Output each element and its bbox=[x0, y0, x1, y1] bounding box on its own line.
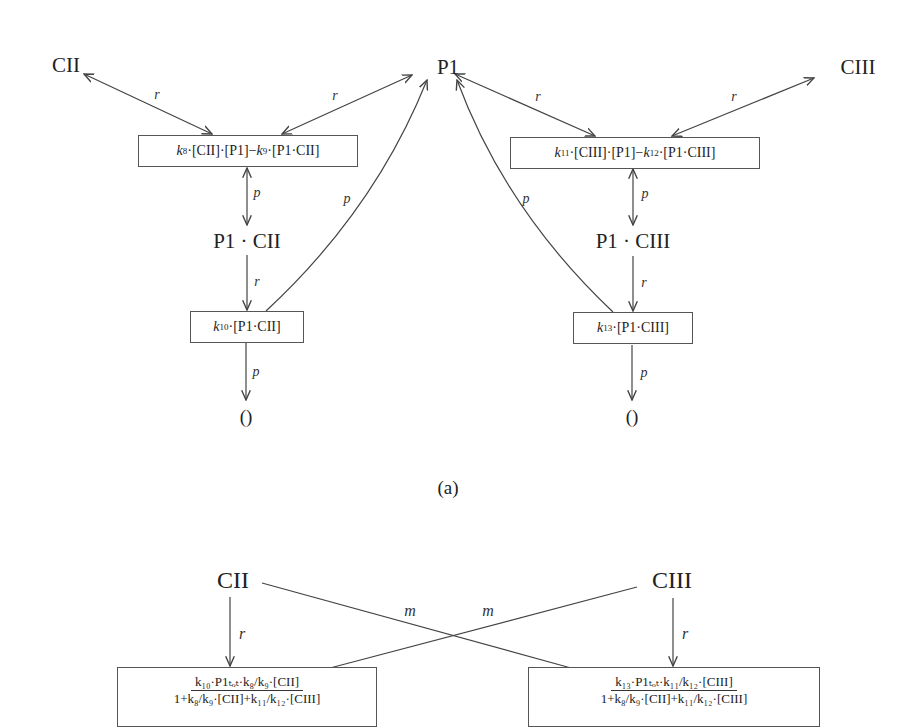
reaction-ciii-production: k₁₃·P1ₜₒₜ·k₁₁/k₁₂·[CIII] 1+k₈/k₉·[CII]+k… bbox=[528, 667, 820, 727]
species-ciii: CIII bbox=[841, 55, 876, 80]
edge-label-r: r bbox=[731, 89, 736, 105]
fraction-numerator: k₁₀·P1ₜₒₜ·k₈/k₉·[CII] bbox=[191, 674, 303, 691]
edge-label-r: r bbox=[332, 88, 337, 104]
edge-label-r: r bbox=[239, 625, 245, 643]
edge-label-p: p bbox=[344, 191, 351, 207]
rate-index: 12 bbox=[650, 148, 659, 158]
rate-fraction: k₁₀·P1ₜₒₜ·k₈/k₉·[CII] 1+k₈/k₉·[CII]+k₁₁/… bbox=[170, 674, 325, 707]
species-p1: P1 bbox=[437, 55, 459, 80]
edge-label-r: r bbox=[154, 87, 159, 103]
reaction-deg-cii: k10·[P1·CII] bbox=[190, 311, 304, 343]
edge-b-cii-m bbox=[262, 583, 571, 668]
edge-label-p: p bbox=[642, 186, 649, 202]
edge-deg-ciii-p1 bbox=[457, 80, 613, 312]
reaction-term: ·[CIII]·[P1]− bbox=[569, 145, 643, 161]
edge-label-p: p bbox=[641, 365, 648, 381]
edge-b-ciii-m bbox=[330, 587, 637, 668]
reaction-term: ·[CII]·[P1]− bbox=[187, 143, 256, 159]
edge-label-p: p bbox=[253, 364, 260, 380]
edge-label-p: p bbox=[523, 191, 530, 207]
fraction-denominator: 1+k₈/k₉·[CII]+k₁₁/k₁₂·[CIII] bbox=[170, 691, 325, 707]
reaction-term: ·[P1·CII] bbox=[229, 319, 281, 335]
edge-ciii-bind bbox=[672, 78, 814, 136]
edge-cii-bind bbox=[84, 74, 212, 134]
edge-label-r: r bbox=[641, 275, 646, 291]
reaction-bind-cii: k8·[CII]·[P1]−k9·[P1·CII] bbox=[138, 135, 358, 167]
reaction-cii-production: k₁₀·P1ₜₒₜ·k₈/k₉·[CII] 1+k₈/k₉·[CII]+k₁₁/… bbox=[117, 667, 377, 727]
edge-p1-bind-cii bbox=[282, 75, 412, 134]
reaction-term: ·[P1·CIII] bbox=[659, 145, 716, 161]
rate-index: 13 bbox=[603, 323, 612, 333]
edge-label-m: m bbox=[404, 602, 416, 620]
sink-right: () bbox=[626, 406, 639, 428]
species-cii-b: CII bbox=[217, 567, 249, 594]
species-ciii-b: CIII bbox=[652, 567, 692, 594]
sink-left: () bbox=[240, 406, 253, 428]
rate-index: 10 bbox=[220, 322, 229, 332]
species-cii: CII bbox=[52, 53, 80, 78]
fraction-denominator: 1+k₈/k₉·[CII]+k₁₁/k₁₂·[CIII] bbox=[597, 691, 752, 707]
species-p1-ciii: P1 · CIII bbox=[596, 229, 671, 254]
reaction-term: ·[P1·CIII] bbox=[612, 320, 669, 336]
reaction-bind-ciii: k11·[CIII]·[P1]−k12·[P1·CIII] bbox=[510, 137, 760, 169]
edge-label-r: r bbox=[682, 625, 688, 643]
rate-fraction: k₁₃·P1ₜₒₜ·k₁₁/k₁₂·[CIII] 1+k₈/k₉·[CII]+k… bbox=[597, 674, 752, 707]
rate-index: 11 bbox=[561, 148, 570, 158]
edge-label-p: p bbox=[254, 185, 261, 201]
edge-label-r: r bbox=[535, 89, 540, 105]
reaction-deg-ciii: k13·[P1·CIII] bbox=[573, 312, 693, 344]
subfigure-caption: (a) bbox=[437, 477, 458, 499]
reaction-term: ·[P1·CII] bbox=[267, 143, 319, 159]
edge-label-m: m bbox=[482, 602, 494, 620]
species-p1-cii: P1 · CII bbox=[213, 229, 281, 254]
edge-label-r: r bbox=[254, 274, 259, 290]
fraction-numerator: k₁₃·P1ₜₒₜ·k₁₁/k₁₂·[CIII] bbox=[611, 674, 737, 691]
